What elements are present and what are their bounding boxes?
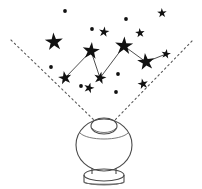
star-marker [161,48,172,59]
star-marker [135,28,145,38]
right-beam [114,41,192,121]
star-marker [82,41,101,59]
dot-star [116,72,120,76]
left-beam [11,40,94,120]
star-marker [137,78,149,90]
dot-star [49,65,53,69]
constellation-links [65,46,166,78]
dot-star [63,9,67,13]
scene-canvas [0,0,202,189]
dot-star [90,27,94,31]
globe-body [76,119,132,171]
star-marker [157,8,167,18]
star-marker [98,26,110,37]
star-projector-globe [76,118,132,185]
star-marker [93,70,108,84]
dot-star [79,84,83,88]
globe-base-rim [84,182,124,185]
star-marker [115,36,134,54]
globe-cap [91,118,117,134]
bright-star-group [44,8,171,94]
dot-star [114,90,118,94]
star-marker [136,52,155,70]
dot-star [124,17,128,21]
star-marker [83,81,96,93]
star-marker [44,32,63,50]
star-projector-scene [0,0,202,189]
